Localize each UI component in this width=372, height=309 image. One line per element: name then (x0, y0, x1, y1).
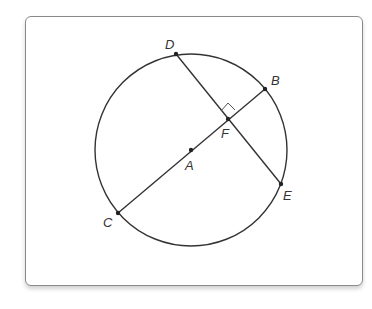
circle-diagram: A B C D E F (0, 0, 372, 309)
label-d: D (165, 37, 174, 52)
label-a: A (184, 158, 194, 173)
label-c: C (103, 215, 113, 230)
point-a (189, 148, 193, 152)
label-f: F (221, 126, 230, 141)
point-e (279, 182, 283, 186)
right-angle-marker (221, 103, 235, 111)
point-b (263, 87, 267, 91)
point-d (174, 52, 178, 56)
label-e: E (283, 188, 292, 203)
label-b: B (271, 73, 280, 88)
point-f (226, 117, 230, 121)
point-c (116, 211, 120, 215)
